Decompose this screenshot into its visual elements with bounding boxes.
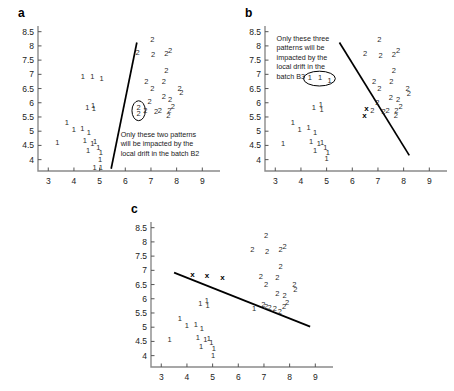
panel-a: a 44.555.566.577.588.5345678911111111111… <box>0 0 227 195</box>
y-tick-label: 5 <box>123 322 147 332</box>
data-point-class-1: 1 <box>100 76 104 84</box>
data-point-class-2: 2 <box>279 263 283 271</box>
data-point-class-1: 1 <box>291 119 295 127</box>
data-point-class-1: 1 <box>167 336 171 344</box>
panel-annotation-text: Only these two patterns will be impacted… <box>121 130 200 159</box>
data-point-class-2: 2 <box>285 299 289 307</box>
y-tick-label: 5.5 <box>123 308 147 318</box>
data-point-class-2: 2 <box>150 85 154 93</box>
y-tick-label: 8.5 <box>123 223 147 233</box>
data-point-class-2: 2 <box>162 79 166 87</box>
data-point-class-1: 1 <box>185 322 189 330</box>
data-point-class-2: 2 <box>164 68 168 76</box>
data-point-class-2: 2 <box>363 50 367 58</box>
drifted-pattern-marker: x <box>220 274 224 282</box>
y-tick-label: 4.5 <box>10 140 34 150</box>
y-tick-label: 6.5 <box>237 84 261 94</box>
data-point-class-2: 2 <box>265 248 269 256</box>
data-point-class-1: 1 <box>87 129 91 137</box>
y-tick-label: 4.5 <box>237 140 261 150</box>
data-point-class-1: 1 <box>313 147 317 155</box>
panel-a-label: a <box>18 6 25 20</box>
y-tick-label: 5.5 <box>237 112 261 122</box>
y-tick-label: 8 <box>123 237 147 247</box>
plot-area-b: 44.555.566.577.588.534567891111111111111… <box>265 26 437 171</box>
plot-area-c: 44.555.566.577.588.534567891111111111111… <box>151 222 323 367</box>
data-point-class-1: 1 <box>319 106 323 114</box>
data-point-class-1: 1 <box>194 321 198 329</box>
data-point-class-2: 2 <box>378 52 382 60</box>
data-point-class-1: 1 <box>83 137 87 145</box>
data-point-class-1: 1 <box>85 104 89 112</box>
data-point-class-2: 2 <box>144 79 148 87</box>
y-tick-label: 4 <box>10 155 34 165</box>
data-point-class-1: 1 <box>298 126 302 134</box>
data-point-class-1: 1 <box>313 129 317 137</box>
plot-area-a: 44.555.566.577.588.534567891111111111111… <box>38 26 210 171</box>
panel-annotation-text: Only these three patterns will be impact… <box>277 34 330 82</box>
data-point-class-1: 1 <box>199 343 203 351</box>
data-point-class-1: 1 <box>307 125 311 133</box>
data-point-class-2: 2 <box>268 304 272 312</box>
data-point-class-2: 2 <box>273 305 277 313</box>
data-point-class-2: 2 <box>171 103 175 111</box>
y-tick-label: 4.5 <box>123 336 147 346</box>
data-point-class-2: 2 <box>136 49 140 57</box>
data-point-class-2: 2 <box>162 93 166 101</box>
data-point-class-2: 2 <box>264 281 268 289</box>
panel-c-label: c <box>131 202 138 216</box>
y-tick-label: 5 <box>10 126 34 136</box>
data-point-class-2: 2 <box>275 290 279 298</box>
data-point-class-1: 1 <box>178 315 182 323</box>
y-tick-label: 8.5 <box>237 27 261 37</box>
data-point-class-2: 2 <box>179 89 183 97</box>
data-point-class-2: 2 <box>398 103 402 111</box>
y-tick-label: 7.5 <box>237 55 261 65</box>
data-point-class-2: 2 <box>392 68 396 76</box>
panel-b-label: b <box>245 6 252 20</box>
data-point-class-2: 2 <box>377 85 381 93</box>
data-point-class-2: 2 <box>259 274 263 282</box>
drifted-pattern-marker: x <box>362 112 366 120</box>
data-point-class-2: 2 <box>137 110 141 118</box>
data-point-class-1: 1 <box>211 352 215 360</box>
y-tick-label: 8 <box>237 41 261 51</box>
data-point-class-1: 1 <box>325 155 329 163</box>
data-point-class-2: 2 <box>150 36 154 44</box>
data-point-class-1: 1 <box>281 140 285 148</box>
data-point-class-2: 2 <box>370 107 374 115</box>
data-point-class-1: 1 <box>309 138 313 146</box>
data-point-class-2: 2 <box>166 112 170 120</box>
data-point-class-2: 2 <box>389 79 393 87</box>
data-point-class-2: 2 <box>148 98 152 106</box>
y-tick-label: 7 <box>237 69 261 79</box>
data-point-class-1: 1 <box>80 125 84 133</box>
data-point-class-2: 2 <box>151 51 155 59</box>
data-point-class-2: 2 <box>394 112 398 120</box>
data-point-class-2: 2 <box>143 107 147 115</box>
drifted-pattern-marker: x <box>190 271 194 279</box>
y-tick-label: 6.5 <box>123 280 147 290</box>
data-point-class-1: 1 <box>200 325 204 333</box>
data-point-class-2: 2 <box>275 275 279 283</box>
data-point-class-2: 2 <box>372 79 376 87</box>
decision-boundary-line <box>174 273 310 327</box>
data-point-class-2: 2 <box>377 36 381 44</box>
y-tick-label: 7 <box>10 69 34 79</box>
y-tick-label: 8.5 <box>10 27 34 37</box>
drifted-pattern-marker: x <box>205 272 209 280</box>
data-point-class-2: 2 <box>375 99 379 107</box>
data-point-class-1: 1 <box>86 147 90 155</box>
data-point-class-1: 1 <box>92 105 96 113</box>
y-tick-label: 6 <box>10 98 34 108</box>
data-point-class-1: 1 <box>81 73 85 81</box>
data-point-class-2: 2 <box>282 243 286 251</box>
data-point-class-2: 2 <box>250 246 254 254</box>
y-tick-label: 7 <box>123 265 147 275</box>
data-point-class-1: 1 <box>99 164 103 172</box>
data-point-class-1: 1 <box>92 164 96 172</box>
data-point-class-1: 1 <box>72 126 76 134</box>
y-tick-label: 4 <box>237 155 261 165</box>
data-point-class-2: 2 <box>278 308 282 316</box>
y-tick-label: 5.5 <box>10 112 34 122</box>
